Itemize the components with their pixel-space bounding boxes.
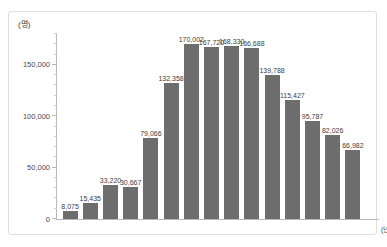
y-axis-tick-label: 150,000 <box>23 61 50 69</box>
bar[interactable]: 8,075 <box>63 211 78 219</box>
y-axis-minor-tick <box>54 177 57 178</box>
y-axis-minor-tick <box>54 146 57 147</box>
y-axis-minor-tick <box>54 74 57 75</box>
plot-area: (명) (년) 050,000100,000150,000 8,07518701… <box>56 34 379 220</box>
y-axis-major-tick <box>52 167 57 168</box>
bar[interactable]: 139,788 <box>265 75 280 219</box>
bar-value-label: 79,066 <box>140 130 161 137</box>
bar-value-label: 66,982 <box>342 142 363 149</box>
y-axis-minor-tick <box>54 187 57 188</box>
y-axis-minor-tick <box>54 105 57 106</box>
y-axis-minor-tick <box>54 84 57 85</box>
y-axis-minor-tick <box>54 54 57 55</box>
bar-value-label: 95,787 <box>302 113 323 120</box>
bar-value-label: 30,667 <box>120 179 141 186</box>
bar[interactable]: 168,330 <box>224 46 239 219</box>
chart-frame: (명) (년) 050,000100,000150,000 8,07518701… <box>8 11 377 235</box>
bar-value-label: 132,358 <box>158 75 183 82</box>
y-axis-tick-label: 50,000 <box>27 164 50 172</box>
bar[interactable]: 33,220 <box>103 185 118 219</box>
bar-value-label: 33,220 <box>100 177 121 184</box>
y-axis-tick-label: 0 <box>46 215 50 223</box>
y-axis-minor-tick <box>54 43 57 44</box>
bar[interactable]: 82,026 <box>325 135 340 219</box>
y-axis-minor-tick <box>54 33 57 34</box>
y-axis-minor-tick <box>54 208 57 209</box>
chart-figure: (명) (년) 050,000100,000150,000 8,07518701… <box>0 0 387 247</box>
bar[interactable]: 115,427 <box>285 100 300 219</box>
bar-value-label: 82,026 <box>322 127 343 134</box>
x-axis-line <box>56 219 379 220</box>
bar[interactable]: 166,688 <box>244 48 259 219</box>
bar[interactable]: 15,435 <box>83 203 98 219</box>
bar-value-label: 115,427 <box>280 92 305 99</box>
y-axis-major-tick <box>52 64 57 65</box>
x-axis-unit-label: (년) <box>381 224 387 234</box>
bar[interactable]: 170,002 <box>184 44 199 219</box>
bar[interactable]: 66,982 <box>345 150 360 219</box>
y-axis-major-tick <box>52 115 57 116</box>
y-axis-unit-label: (명) <box>18 18 30 29</box>
y-axis-major-tick <box>52 218 57 219</box>
bar-value-label: 15,435 <box>80 195 101 202</box>
y-axis-tick-label: 100,000 <box>23 112 50 120</box>
bar[interactable]: 95,787 <box>305 121 320 219</box>
y-axis-minor-tick <box>54 95 57 96</box>
y-axis-minor-tick <box>54 156 57 157</box>
bar-value-label: 8,075 <box>61 203 79 210</box>
y-axis-line <box>56 34 57 220</box>
bar-value-label: 166,688 <box>239 40 264 47</box>
bar[interactable]: 79,066 <box>143 138 158 219</box>
y-axis-minor-tick <box>54 197 57 198</box>
y-axis-minor-tick <box>54 136 57 137</box>
y-axis-minor-tick <box>54 126 57 127</box>
bar[interactable]: 132,358 <box>164 83 179 219</box>
bar-value-label: 139,788 <box>259 67 284 74</box>
bar[interactable]: 167,720 <box>204 47 219 219</box>
chart-title <box>0 0 387 10</box>
bar[interactable]: 30,667 <box>123 187 138 219</box>
